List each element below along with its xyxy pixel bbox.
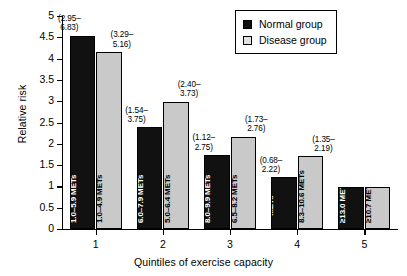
- bar-met-range-label: ≥13.0 METs: [338, 187, 346, 224]
- ci-label-disease-q3: (1.73– 2.76): [236, 115, 276, 133]
- legend-label-normal-group: Normal group: [259, 18, 323, 30]
- legend-item-disease-group: Disease group: [243, 32, 327, 48]
- bar-disease-q2: 5.0–6.4 METs: [163, 102, 189, 230]
- bar-disease-q3: 6.5–8.2 METs: [231, 137, 257, 230]
- bar-met-range-label: 1.0–5.9 METs: [70, 175, 78, 223]
- ci-label-normal-q1: (2.95– 6.83): [49, 14, 89, 32]
- x-tick-label: 4: [282, 238, 312, 250]
- legend-label-disease-group: Disease group: [259, 34, 327, 46]
- bar-met-range-label: 8.3–10.6 METs: [298, 171, 306, 224]
- bar-normal-q1: 1.0–5.9 METs: [70, 36, 96, 230]
- ci-label-disease-q1: (3.29– 5.16): [102, 30, 142, 48]
- x-tick-mark: [364, 230, 365, 235]
- bar-normal-q3: 8.0–9.9 METs: [204, 155, 230, 230]
- x-tick-mark: [96, 230, 97, 235]
- bar-normal-q4: 10.0–12.9 METs: [271, 177, 297, 229]
- relative-risk-bar-chart: Relative risk Quintiles of exercise capa…: [0, 0, 407, 276]
- y-tick-label: 1.5: [14, 158, 54, 170]
- bar-disease-q4: 8.3–10.6 METs: [298, 156, 324, 229]
- bar-disease-q1: 1.0–4.9 METs: [96, 52, 122, 230]
- y-tick-label: 2: [14, 137, 54, 149]
- y-tick-mark: [57, 229, 62, 230]
- x-axis-title: Quintiles of exercise capacity: [0, 256, 407, 268]
- x-tick-mark: [297, 230, 298, 235]
- y-tick-mark: [57, 144, 62, 145]
- y-tick-mark: [57, 101, 62, 102]
- y-tick-label: 0.5: [14, 201, 54, 213]
- y-tick-mark: [57, 123, 62, 124]
- x-tick-mark: [230, 230, 231, 235]
- bar-met-range-label: 10.0–12.9 METs: [271, 189, 275, 224]
- x-tick-label: 2: [148, 238, 178, 250]
- gray-square-icon: [243, 36, 252, 45]
- bar-met-range-label: 5.0–6.4 METs: [163, 175, 171, 223]
- y-tick-label: 0: [14, 222, 54, 234]
- y-tick-label: 4.5: [14, 30, 54, 42]
- ci-label-normal-q4: (0.68– 2.22): [251, 156, 291, 174]
- ci-label-normal-q2: (1.54– 3.75): [117, 106, 157, 124]
- bar-met-range-label: 6.0–7.9 METs: [137, 175, 145, 223]
- y-tick-mark: [57, 80, 62, 81]
- bar-disease-q5: ≥10.7 METs: [365, 187, 391, 230]
- y-tick-label: 3: [14, 94, 54, 106]
- y-tick-label: 3.5: [14, 73, 54, 85]
- y-tick-mark: [57, 186, 62, 187]
- y-tick-label: 1: [14, 179, 54, 191]
- y-axis-line: [62, 16, 63, 230]
- y-tick-mark: [57, 208, 62, 209]
- bar-met-range-label: ≥10.7 METs: [365, 187, 373, 224]
- x-tick-label: 1: [81, 238, 111, 250]
- y-tick-label: 2.5: [14, 116, 54, 128]
- ci-label-disease-q4: (1.35– 2.19): [303, 135, 343, 153]
- chart-legend: Normal group Disease group: [235, 10, 337, 54]
- x-tick-mark: [163, 230, 164, 235]
- y-tick-label: 4: [14, 52, 54, 64]
- y-tick-label: 5: [14, 9, 54, 21]
- bar-met-range-label: 8.0–9.9 METs: [204, 175, 212, 223]
- plot-area: 00.511.522.533.544.55 12345 1.0–5.9 METs…: [62, 16, 398, 230]
- ci-label-disease-q2: (2.40– 3.73): [169, 80, 209, 98]
- legend-item-normal-group: Normal group: [243, 16, 327, 32]
- y-tick-mark: [57, 37, 62, 38]
- bar-normal-q5: ≥13.0 METs: [338, 187, 364, 230]
- black-square-icon: [243, 20, 252, 29]
- ci-label-normal-q3: (1.12– 2.75): [184, 133, 224, 151]
- bar-met-range-label: 1.0–4.9 METs: [96, 175, 104, 223]
- x-tick-label: 3: [215, 238, 245, 250]
- bar-met-range-label: 6.5–8.2 METs: [231, 175, 239, 223]
- bar-normal-q2: 6.0–7.9 METs: [137, 127, 163, 229]
- y-tick-mark: [57, 165, 62, 166]
- y-tick-mark: [57, 59, 62, 60]
- x-tick-label: 5: [349, 238, 379, 250]
